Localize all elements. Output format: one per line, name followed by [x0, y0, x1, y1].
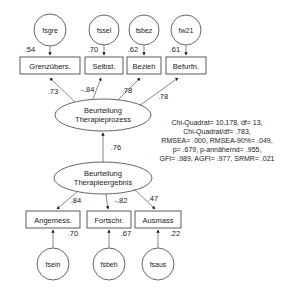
- fit-stat-line-1: Chi-Quadrat= 10.178, df= 13,: [171, 119, 262, 127]
- residual-label-fw21: fw21: [179, 27, 194, 34]
- latent-beurteilung-therapieergebnis[interactable]: Beurteilung Therapieergebnis: [54, 162, 152, 194]
- residual-label-fsbeh: fsbeh: [100, 261, 117, 268]
- fit-stat-line-3: RMSEA= .000, RMSEA-90%= .049,: [161, 137, 272, 144]
- coef-prozess-grenzuebers: .73: [48, 87, 58, 96]
- indicator-box-befurfn[interactable]: Befurfn.: [166, 57, 206, 74]
- coef-residual-ausmass: .22: [170, 229, 180, 238]
- coef-structural-path: .76: [111, 143, 121, 152]
- indicator-box-selbst[interactable]: Selbst.: [85, 57, 123, 74]
- bottom-residual-fsein[interactable]: fsein: [37, 248, 69, 280]
- coef-ergebnis-ausmass: .47: [148, 194, 158, 203]
- indicator-box-bezieh[interactable]: Bezieh: [127, 57, 161, 74]
- indicator-label-fortschr: Fortschr.: [94, 216, 123, 225]
- coef-prozess-selbst: -.84: [82, 85, 95, 94]
- bottom-residual-fsaus[interactable]: fsaus: [142, 248, 174, 280]
- residual-label-fsein: fsein: [46, 261, 61, 268]
- top-residual-fssel[interactable]: fssel: [89, 15, 119, 45]
- residual-label-fsaus: fsaus: [150, 261, 167, 268]
- top-residual-fw21[interactable]: fw21: [171, 15, 201, 45]
- fit-statistics-block: Chi-Quadrat= 10.178, df= 13, Chi-Quadrat…: [160, 119, 275, 162]
- indicator-label-bezieh: Bezieh: [133, 62, 156, 71]
- residual-label-fssel: fssel: [97, 27, 112, 34]
- fit-stat-line-5: GFI= .989, AGFI= .977, SRMR= .021: [160, 155, 275, 162]
- fit-stat-line-4: p= .679, p-annähernd= .955,: [173, 146, 262, 154]
- indicator-box-angemess[interactable]: Angemess.: [26, 211, 80, 228]
- residual-label-fsgre: fsgre: [42, 27, 58, 35]
- top-residual-fsgre[interactable]: fsgre: [34, 14, 66, 46]
- diagram-canvas: fsgre fssel fsbez fw21 .54 .70 .62 .61 G…: [0, 0, 281, 290]
- latent-ergebnis-line1: Beurteilung: [84, 169, 122, 178]
- coef-prozess-bezieh: .78: [122, 86, 132, 95]
- coef-residual-fortschr: .67: [121, 229, 131, 238]
- coef-residual-selbst: .70: [88, 45, 98, 54]
- latent-beurteilung-therapieprozess[interactable]: Beurteilung Therapieprozess: [55, 99, 151, 131]
- latent-ergebnis-line2: Therapieergebnis: [74, 178, 133, 187]
- coef-prozess-befurfn: .78: [158, 92, 168, 101]
- indicator-box-grenzuebers[interactable]: Grenzübers.: [20, 57, 80, 74]
- residual-label-fsbez: fsbez: [136, 27, 153, 34]
- coef-residual-bezieh: .62: [128, 45, 138, 54]
- latent-prozess-line2: Therapieprozess: [75, 115, 131, 124]
- bottom-residual-fsbeh[interactable]: fsbeh: [93, 248, 125, 280]
- indicator-label-grenzuebers: Grenzübers.: [29, 62, 70, 71]
- indicator-label-selbst: Selbst.: [93, 62, 116, 71]
- coef-residual-befurfn: .61: [170, 45, 180, 54]
- latent-prozess-line1: Beurteilung: [84, 106, 122, 115]
- indicator-label-befurfn: Befurfn.: [173, 62, 199, 71]
- sem-path-diagram: fsgre fssel fsbez fw21 .54 .70 .62 .61 G…: [0, 0, 281, 290]
- indicator-label-angemess: Angemess.: [34, 216, 72, 225]
- fit-stat-line-2: Chi-Quadrat/df= .783,: [183, 128, 251, 136]
- edge-ergebnis-to-fortschr: [106, 194, 108, 209]
- indicator-box-fortschr[interactable]: Fortschr.: [87, 211, 131, 228]
- coef-residual-angemess: .70: [68, 229, 78, 238]
- coef-residual-grenzuebers: .54: [25, 45, 35, 54]
- indicator-label-ausmass: Ausmass: [143, 216, 174, 225]
- coef-ergebnis-angemess: .84: [71, 196, 81, 205]
- top-residual-fsbez[interactable]: fsbez: [129, 15, 159, 45]
- coef-ergebnis-fortschr: -.82: [115, 196, 128, 205]
- indicator-box-ausmass[interactable]: Ausmass: [135, 211, 181, 228]
